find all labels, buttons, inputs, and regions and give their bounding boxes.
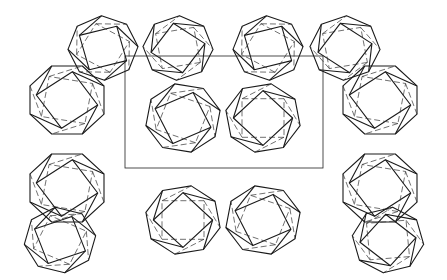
- cage-hidden-edge: [323, 27, 368, 68]
- polyhedral-cages: [24, 16, 423, 273]
- cage-hidden-edge: [41, 165, 92, 212]
- cage-hidden-edge: [50, 214, 82, 216]
- cage-edge: [235, 194, 291, 245]
- cage-hidden-edge: [52, 124, 85, 134]
- cage-hidden-edge: [30, 174, 41, 205]
- crystal-structure-diagram: [0, 0, 447, 280]
- cage-edge: [233, 16, 303, 80]
- cage-edge: [226, 186, 300, 254]
- cage-hidden-edge: [354, 165, 405, 212]
- cage-hidden-edge: [261, 24, 292, 25]
- cage-edge: [143, 16, 213, 80]
- cage-edge: [68, 16, 138, 80]
- cage-hidden-edge: [77, 26, 78, 54]
- cage-edge: [310, 16, 380, 80]
- cage-edge: [36, 72, 97, 129]
- cage-hidden-edge: [86, 231, 88, 260]
- cage-edge: [349, 72, 410, 129]
- cage-hidden-edge: [290, 208, 295, 238]
- cage-hidden-edge: [93, 172, 104, 203]
- cage-hidden-edge: [406, 172, 417, 203]
- cage-hidden-edge: [170, 89, 203, 94]
- cage-hidden-edge: [96, 24, 127, 25]
- cage-hidden-edge: [231, 201, 236, 231]
- cage-edge: [244, 26, 291, 70]
- cage-hidden-edge: [244, 72, 275, 73]
- cage-edge: [146, 84, 220, 152]
- cage-edge: [343, 66, 417, 134]
- cage-hidden-edge: [30, 86, 41, 117]
- cage-hidden-edge: [343, 86, 354, 117]
- cage-hidden-edge: [365, 124, 398, 134]
- cage-hidden-edge: [49, 154, 82, 164]
- cage-hidden-edge: [79, 72, 110, 73]
- cage-edge: [146, 186, 220, 254]
- cage-hidden-edge: [354, 77, 405, 124]
- cage-hidden-edge: [343, 174, 354, 205]
- cage-hidden-edge: [41, 77, 92, 124]
- cage-hidden-edge: [34, 216, 87, 265]
- cage-hidden-edge: [243, 245, 276, 250]
- cage-edge: [155, 92, 211, 143]
- cage-edge: [226, 84, 300, 152]
- cage-hidden-edge: [362, 154, 395, 164]
- cage-edge: [79, 26, 126, 70]
- cage-edge: [35, 217, 86, 264]
- cage-hidden-edge: [156, 93, 210, 142]
- cage-hidden-edge: [236, 195, 290, 244]
- cage-edge: [36, 160, 97, 217]
- cage-hidden-edge: [38, 264, 70, 266]
- cage-hidden-edge: [242, 26, 243, 54]
- cage-hidden-edge: [367, 220, 410, 260]
- cage-hidden-edge: [362, 66, 395, 76]
- cage-hidden-edge: [250, 191, 283, 196]
- cage-edge: [30, 154, 104, 222]
- cage-hidden-edge: [210, 106, 215, 136]
- cage-edge: [343, 154, 417, 222]
- cage-hidden-edge: [156, 27, 201, 68]
- cage-hidden-edge: [163, 143, 196, 148]
- cage-hidden-edge: [151, 99, 156, 129]
- cage-edge: [349, 160, 410, 217]
- cage-hidden-edge: [406, 84, 417, 115]
- unit-cell-outline: [125, 56, 323, 168]
- cage-hidden-edge: [93, 84, 104, 115]
- cage-edge: [352, 207, 423, 273]
- cage-hidden-edge: [31, 220, 33, 249]
